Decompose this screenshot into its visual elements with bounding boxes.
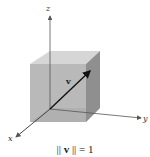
- y-axis-label: y: [142, 114, 148, 123]
- unit-vector-diagram: z y x v || v || = 1: [0, 0, 150, 157]
- norm-open: ||: [56, 143, 60, 155]
- cube-front-face: [30, 64, 86, 122]
- norm-caption: || v || = 1: [0, 143, 150, 155]
- z-axis-label: z: [45, 4, 51, 13]
- norm-vector: v: [64, 143, 70, 155]
- norm-close-equals: || = 1: [72, 143, 94, 155]
- x-axis-label: x: [8, 134, 13, 143]
- vector-label: v: [65, 76, 71, 86]
